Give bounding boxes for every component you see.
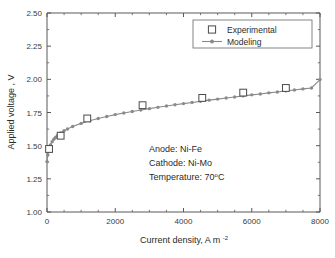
chart-legend: ExperimentalModeling <box>193 20 312 48</box>
y-tick-label: 2.25 <box>26 42 42 51</box>
modeling-data-point <box>182 102 185 105</box>
experimental-data-point <box>199 95 206 102</box>
experimental-data-point <box>139 102 146 109</box>
modeling-data-point <box>131 110 134 113</box>
x-tick-label: 6000 <box>243 217 261 226</box>
x-tick-label: 8000 <box>311 217 329 226</box>
y-tick-label: 2.00 <box>26 75 42 84</box>
modeling-data-point <box>207 98 210 101</box>
experimental-data-point <box>57 132 64 139</box>
modeling-data-point <box>46 153 49 156</box>
x-tick-label: 0 <box>45 217 50 226</box>
modeling-data-point <box>71 125 74 128</box>
annotation-line: Temperature: 70oC <box>149 172 225 183</box>
legend-label-experimental: Experimental <box>227 25 277 35</box>
polarization-curve-chart: 02000400060008000 1.001.251.501.752.002.… <box>0 0 335 258</box>
modeling-data-point <box>276 90 279 93</box>
modeling-data-point <box>233 95 236 98</box>
x-tick-label: 2000 <box>106 217 124 226</box>
annotation-textblock: Anode: Ni-FeCathode: Ni-MoTemperature: 7… <box>149 144 225 182</box>
modeling-data-point <box>293 88 296 91</box>
modeling-data-point <box>45 160 48 163</box>
modeling-data-point <box>105 115 108 118</box>
modeling-data-point <box>173 103 176 106</box>
annotation-line: Anode: Ni-Fe <box>149 144 202 154</box>
legend-label-modeling: Modeling <box>227 37 262 47</box>
modeling-data-point <box>148 107 151 110</box>
modeling-data-point <box>250 93 253 96</box>
modeling-data-point <box>96 117 99 120</box>
x-tick-label: 4000 <box>175 217 193 226</box>
modeling-data-point <box>224 96 227 99</box>
experimental-data-point <box>240 89 247 96</box>
y-tick-label: 2.50 <box>26 9 42 18</box>
legend-marker-experimental <box>208 26 215 33</box>
modeling-data-point <box>216 97 219 100</box>
experimental-data-point <box>84 115 91 122</box>
legend-marker-modeling-dot <box>210 40 214 44</box>
modeling-data-point <box>156 106 159 109</box>
y-tick-label: 1.25 <box>26 175 42 184</box>
modeling-data-point <box>66 127 69 130</box>
modeling-data-point <box>301 87 304 90</box>
annotation-line: Cathode: Ni-Mo <box>149 158 212 168</box>
modeling-data-point <box>318 78 321 81</box>
modeling-data-point <box>122 111 125 114</box>
modeling-data-point <box>259 92 262 95</box>
chart-figure: 02000400060008000 1.001.251.501.752.002.… <box>0 0 335 258</box>
experimental-data-point <box>282 85 289 92</box>
y-tick-label: 1.75 <box>26 109 42 118</box>
y-axis-tick-labels: 1.001.251.501.752.002.252.50 <box>26 9 42 217</box>
modeling-data-point <box>114 113 117 116</box>
modeling-data-point <box>267 91 270 94</box>
x-axis-title: Current density, A m -2 <box>140 235 229 245</box>
modeling-data-point <box>310 86 313 89</box>
y-axis-title: Applied voltage , V <box>6 74 16 149</box>
modeling-data-point <box>165 104 168 107</box>
y-tick-label: 1.50 <box>26 142 42 151</box>
modeling-data-point <box>79 122 82 125</box>
x-axis-tick-labels: 02000400060008000 <box>45 217 330 226</box>
experimental-data-point <box>46 146 53 153</box>
y-tick-label: 1.00 <box>26 208 42 217</box>
modeling-data-point <box>190 101 193 104</box>
